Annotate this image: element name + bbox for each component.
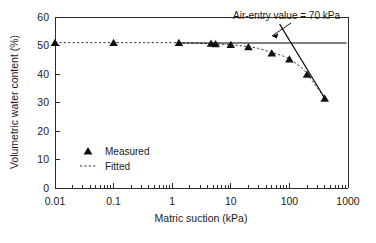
y-tick-label-30: 30: [37, 96, 49, 108]
x-tick-label-1: 1: [169, 195, 175, 207]
chart-canvas: 0 10 20 30 40 50 60 0.01 0.1 1 10 100 10…: [0, 0, 376, 243]
measured-data-points: [51, 39, 329, 102]
y-tick-label-60: 60: [37, 11, 49, 23]
steepest-slope-tangent-line: [280, 24, 327, 101]
y-tick-labels: 0 10 20 30 40 50 60: [37, 11, 49, 194]
x-tick-label-100: 100: [281, 195, 299, 207]
data-point-marker: [320, 95, 329, 102]
legend-label-fitted: Fitted: [105, 161, 130, 172]
x-axis-ticks: [55, 183, 348, 188]
soil-water-characteristic-curve-figure: 0 10 20 30 40 50 60 0.01 0.1 1 10 100 10…: [0, 0, 376, 243]
x-tick-label-0-1: 0.1: [106, 195, 121, 207]
y-tick-label-40: 40: [37, 68, 49, 80]
legend-label-measured: Measured: [105, 146, 149, 157]
data-point-marker: [51, 39, 60, 46]
x-tick-label-1000: 1000: [336, 195, 360, 207]
legend: Measured Fitted: [80, 146, 149, 172]
y-tick-label-50: 50: [37, 39, 49, 51]
y-tick-label-0: 0: [43, 182, 49, 194]
x-tick-label-0-01: 0.01: [45, 195, 66, 207]
y-axis-title: Volumetric water content (%): [8, 35, 20, 169]
legend-marker-measured: [84, 147, 93, 154]
x-tick-labels: 0.01 0.1 1 10 100 1000: [45, 195, 360, 207]
fitted-curve: [55, 43, 325, 99]
air-entry-leader-arrow: [272, 23, 291, 39]
y-tick-label-10: 10: [37, 153, 49, 165]
air-entry-value-annotation: Air-entry value = 70 kPa: [233, 10, 340, 21]
y-tick-label-20: 20: [37, 125, 49, 137]
x-tick-label-10: 10: [225, 195, 237, 207]
data-point-marker: [285, 55, 294, 62]
x-axis-title: Matric suction (kPa): [155, 212, 248, 224]
